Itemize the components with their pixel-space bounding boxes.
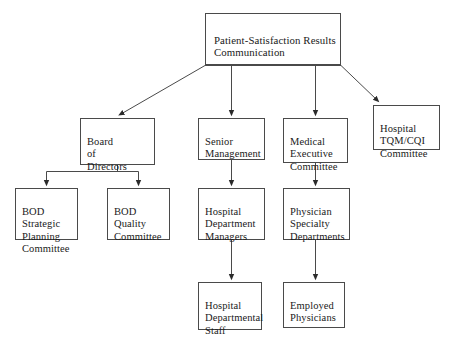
node-physician-specialty-departments: Physician Specialty Departments [283, 188, 350, 240]
node-employed-physicians-label: Employed Physicians [290, 300, 344, 324]
node-bod-strategic-planning-committee-label: BOD Strategic Planning Committee [22, 206, 77, 255]
node-bod-quality-committee-label: BOD Quality Committee [114, 206, 169, 243]
node-root: Patient-Satisfaction Results Communicati… [205, 13, 341, 65]
connector-root-to-hospital-tqm-cqi-committee [341, 66, 377, 101]
org-chart: Patient-Satisfaction Results Communicati… [0, 0, 452, 348]
node-senior-management: Senior Management [198, 118, 265, 160]
node-employed-physicians: Employed Physicians [283, 282, 345, 328]
node-hospital-tqm-cqi-committee: Hospital TQM/CQI Committee [373, 105, 440, 150]
node-bod-quality-committee: BOD Quality Committee [107, 188, 170, 240]
node-medical-executive-committee: Medical Executive Committee [283, 118, 348, 163]
connector-root-to-board-of-directors [121, 66, 205, 115]
node-hospital-tqm-cqi-committee-label: Hospital TQM/CQI Committee [380, 123, 439, 160]
node-hospital-department-managers: Hospital Department Managers [198, 188, 265, 240]
node-hospital-departmental-staff-label: Hospital Departmental Staff [205, 300, 261, 337]
node-hospital-departmental-staff: Hospital Departmental Staff [198, 282, 262, 330]
node-medical-executive-committee-label: Medical Executive Committee [290, 136, 347, 173]
node-board-of-directors-label: Board of Directors [87, 136, 154, 173]
node-board-of-directors: Board of Directors [80, 118, 155, 165]
node-physician-specialty-departments-label: Physician Specialty Departments [290, 206, 349, 243]
node-hospital-department-managers-label: Hospital Department Managers [205, 206, 264, 243]
node-root-label: Patient-Satisfaction Results Communicati… [214, 34, 340, 59]
node-bod-strategic-planning-committee: BOD Strategic Planning Committee [15, 188, 78, 240]
node-senior-management-label: Senior Management [205, 136, 264, 160]
